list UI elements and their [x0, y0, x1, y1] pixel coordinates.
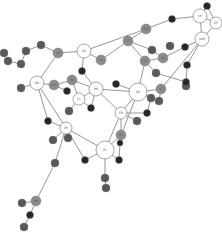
node-me[interactable]: ME [17, 84, 25, 92]
node-lv[interactable]: LV [96, 55, 106, 65]
node-label: PL [103, 148, 107, 152]
node-label: EST [143, 27, 149, 31]
node-label: RS [6, 59, 10, 63]
node-circle [184, 62, 191, 69]
edge-d17-GR [36, 163, 55, 201]
node-rb[interactable]: RB [89, 82, 103, 96]
node-label: SI [40, 43, 43, 47]
network-graph: SPBRRBCLDEFRPLBYVPGFUKRLBMDROLVESTLTCZSK… [0, 0, 222, 234]
node-pt[interactable]: PT [64, 134, 72, 142]
node-label: BR [35, 81, 39, 85]
node-fr[interactable]: FR [115, 107, 127, 119]
node-mk[interactable]: MK [148, 46, 156, 54]
node-al[interactable]: AL [65, 107, 73, 115]
node-b6[interactable] [184, 62, 191, 69]
node-sk[interactable]: SK [158, 53, 168, 63]
node-est[interactable]: EST [141, 24, 151, 34]
node-b8[interactable] [113, 81, 120, 88]
node-bg[interactable]: BG [166, 42, 174, 50]
node-circle [183, 79, 190, 86]
node-label: CY [154, 71, 158, 75]
node-label: AL [67, 109, 71, 113]
node-b7[interactable] [183, 79, 190, 86]
nodes-layer: SPBRRBCLDEFRPLBYVPGFUKRLBMDROLVESTLTCZSK… [0, 3, 222, 232]
node-at[interactable]: AT [156, 84, 166, 94]
node-label: BY [64, 126, 68, 130]
node-b1[interactable] [79, 68, 86, 75]
node-label: HU [119, 133, 123, 137]
node-pl[interactable]: PL [96, 141, 114, 159]
node-label: DE [136, 90, 140, 94]
node-label: RB [94, 87, 98, 91]
node-circle [82, 157, 89, 164]
node-hr[interactable]: HR [22, 47, 30, 55]
node-tr[interactable]: TR [0, 49, 8, 57]
node-label: LB [56, 51, 60, 55]
node-se[interactable]: SE [20, 223, 28, 231]
node-b3[interactable] [88, 105, 95, 112]
node-circle [64, 88, 71, 95]
node-si[interactable]: SI [37, 41, 45, 49]
node-label: HR [24, 49, 28, 53]
node-by[interactable]: BY [60, 122, 72, 134]
node-label: VP [198, 14, 202, 18]
node-ro[interactable]: RO [67, 75, 77, 85]
node-ie[interactable]: IE [133, 117, 141, 125]
node-label: GR [34, 199, 38, 203]
node-label: FI [52, 138, 55, 142]
node-hu[interactable]: HU [116, 130, 126, 140]
edges-layer [8, 6, 216, 227]
node-b12[interactable] [27, 212, 34, 219]
node-label: GF [214, 21, 218, 25]
node-circle [113, 81, 120, 88]
node-circle [204, 3, 211, 10]
node-b4[interactable] [169, 16, 176, 23]
node-md[interactable]: MD [49, 80, 59, 90]
node-is[interactable]: IS [155, 97, 163, 105]
node-de[interactable]: DE [129, 83, 147, 101]
node-circle [79, 68, 86, 75]
node-b14[interactable] [204, 3, 211, 10]
node-circle [144, 110, 151, 117]
node-cz[interactable]: CZ [140, 56, 150, 66]
node-label: MD [52, 83, 58, 87]
node-b15[interactable] [117, 140, 123, 146]
node-dk[interactable]: DK [51, 159, 59, 167]
node-vp[interactable]: VP [193, 9, 207, 23]
node-lu[interactable]: LU [147, 94, 155, 102]
node-nl[interactable]: NL [101, 174, 109, 182]
node-b10[interactable] [45, 118, 52, 125]
node-label: IS [158, 99, 161, 103]
node-lb[interactable]: LB [53, 48, 63, 58]
node-rs[interactable]: RS [4, 57, 12, 65]
node-b2[interactable] [64, 88, 71, 95]
node-b11[interactable] [82, 157, 89, 164]
node-label: TR [1, 51, 6, 55]
node-b5[interactable] [182, 44, 189, 51]
node-circle [169, 16, 176, 23]
node-label: NL [103, 176, 107, 180]
node-fi[interactable]: FI [49, 136, 57, 144]
edge-d10-b7 [156, 73, 186, 82]
node-circle [27, 212, 34, 219]
node-label: PT [66, 136, 70, 140]
node-b9[interactable] [144, 110, 151, 117]
node-label: LT [126, 39, 129, 43]
node-circle [88, 105, 95, 112]
node-lt[interactable]: LT [123, 36, 133, 46]
node-label: ME [19, 86, 24, 90]
node-sp[interactable]: SP [77, 44, 91, 58]
node-be[interactable]: BE [102, 184, 110, 192]
node-label: UKR [199, 37, 205, 41]
node-br[interactable]: BR [30, 76, 44, 90]
node-cy[interactable]: CY [152, 69, 160, 77]
node-circle [45, 118, 52, 125]
node-cl[interactable]: CL [73, 93, 85, 105]
node-gf[interactable]: GF [210, 17, 222, 29]
node-ba[interactable]: BA [17, 60, 25, 68]
node-ukr[interactable]: UKR [195, 32, 209, 46]
node-label: CL [77, 97, 81, 101]
node-no[interactable]: NO [18, 199, 26, 207]
node-gr[interactable]: GR [31, 196, 41, 206]
node-b13[interactable] [116, 157, 123, 164]
